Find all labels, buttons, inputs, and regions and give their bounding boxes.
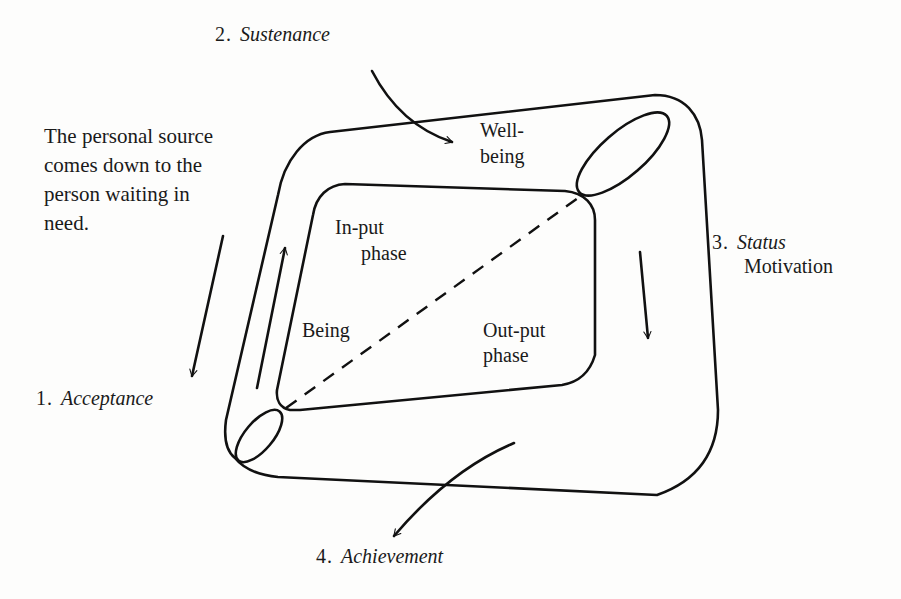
- status-down-arrow-icon: [640, 252, 648, 338]
- stage-2-number: 2.: [215, 23, 232, 45]
- annotation-line-4: need.: [44, 209, 284, 238]
- inner-being-outline: [277, 184, 595, 410]
- diagram-canvas: [0, 0, 901, 599]
- wellbeing-label: Well- being: [480, 117, 524, 169]
- stage-2-label: 2.Sustenance: [215, 22, 330, 46]
- stage-3-name: Status: [737, 231, 786, 253]
- stage-1-name: Acceptance: [61, 387, 153, 409]
- stage-3-subtitle: Motivation: [712, 254, 833, 278]
- stage-2-name: Sustenance: [240, 23, 330, 45]
- wellbeing-ellipse: [565, 99, 681, 208]
- stage-4-label: 4.Achievement: [316, 544, 443, 568]
- output-phase-line-1: Out-put: [483, 318, 545, 343]
- being-label: Being: [302, 318, 350, 342]
- wellbeing-line-2: being: [480, 143, 524, 169]
- annotation-line-1: The personal source: [44, 122, 284, 151]
- achievement-arrow-icon: [394, 443, 514, 536]
- acceptance-ellipse: [228, 402, 291, 469]
- input-phase-line-1: In-put: [335, 214, 407, 240]
- stage-1-number: 1.: [36, 387, 53, 409]
- annotation-line-2: comes down to the: [44, 151, 284, 180]
- output-phase-line-2: phase: [483, 343, 545, 368]
- being-diagonal-dashed-line: [286, 198, 578, 408]
- stage-1-label: 1.Acceptance: [36, 386, 153, 410]
- annotation-text: The personal source comes down to the pe…: [44, 122, 284, 238]
- input-phase-line-2: phase: [335, 240, 407, 266]
- descending-arrow-icon: [192, 236, 223, 376]
- stage-4-name: Achievement: [341, 545, 443, 567]
- output-phase-label: Out-put phase: [483, 318, 545, 368]
- wellbeing-line-1: Well-: [480, 117, 524, 143]
- annotation-line-3: person waiting in: [44, 180, 284, 209]
- stage-4-number: 4.: [316, 545, 333, 567]
- stage-3-number: 3.: [712, 231, 729, 253]
- sustenance-arrow-icon: [372, 71, 452, 142]
- stage-3-label: 3.Status Motivation: [712, 230, 833, 278]
- input-phase-label: In-put phase: [335, 214, 407, 266]
